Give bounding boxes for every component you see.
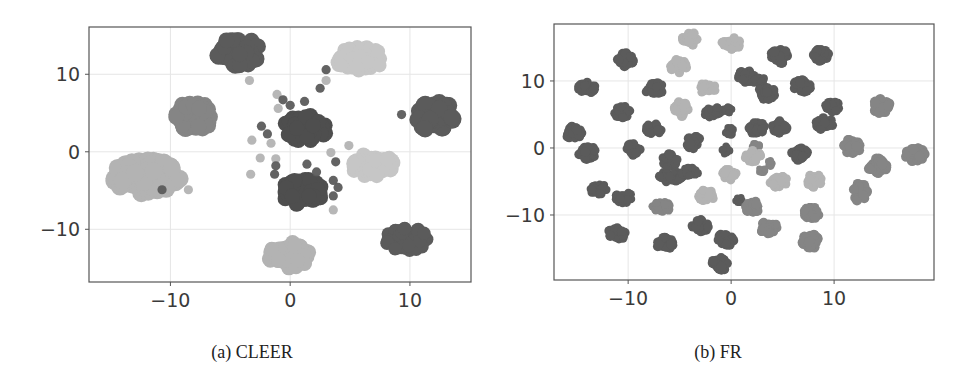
cluster-blob (331, 40, 388, 77)
scatter-point (274, 104, 283, 113)
cluster-blob (678, 28, 702, 49)
x-tick-label: 0 (284, 289, 296, 311)
scatter-point (286, 101, 295, 110)
cluster-blob (745, 118, 769, 137)
cluster-blob (612, 189, 635, 207)
cluster-blob (809, 45, 833, 66)
scatter-point (397, 110, 406, 119)
cluster-blob (767, 45, 792, 68)
cluster-blob (653, 233, 677, 253)
scatter-point (302, 160, 311, 169)
cluster-blob (648, 198, 673, 216)
scatter-point (329, 205, 338, 214)
cluster-blob (722, 124, 737, 139)
scatter-point (246, 170, 255, 179)
cluster-blob (683, 132, 704, 153)
caption-fr: (b) FR (694, 342, 742, 363)
scatter-clusters (563, 28, 930, 274)
scatter-point (270, 170, 279, 179)
scatter-point (331, 157, 340, 166)
cluster-blob (803, 171, 825, 192)
cluster-blob (696, 79, 719, 96)
scatter-point (312, 167, 321, 176)
y-tick-label: −10 (40, 218, 80, 240)
cluster-blob (587, 180, 611, 198)
scatter-point (344, 141, 353, 150)
cluster-blob (168, 96, 218, 138)
cluster-blob (613, 48, 638, 71)
cluster-blob (678, 164, 702, 180)
cluster-blob (209, 32, 266, 74)
cluster-blob (766, 172, 791, 192)
scatter-point (257, 122, 266, 131)
cluster-blob (787, 143, 812, 164)
scatter-point (322, 76, 331, 85)
cluster-blob (688, 215, 713, 236)
scatter-point (247, 136, 256, 145)
cluster-blob (864, 153, 891, 178)
scatter-point (263, 129, 272, 138)
scatter-point (256, 153, 265, 162)
cluster-blob (262, 235, 316, 275)
scatter-point (333, 183, 342, 192)
cluster-blob (105, 151, 188, 202)
cluster-blob (278, 172, 329, 212)
panel-cleer: −10010 −10010 (a) CLEER (40, 27, 471, 363)
y-axis: −10010 (40, 63, 89, 240)
x-tick-label: −10 (150, 289, 190, 311)
y-tick-label: 10 (56, 63, 80, 85)
x-axis: −10010 (608, 280, 846, 309)
cluster-blob (610, 102, 634, 122)
cluster-blob (800, 203, 823, 223)
cluster-blob (642, 119, 665, 138)
caption-cleer: (a) CLEER (211, 342, 292, 363)
cluster-blob (718, 33, 744, 54)
cluster-blob (278, 108, 333, 148)
x-tick-label: 0 (725, 287, 737, 309)
cluster-blob (563, 122, 587, 143)
cluster-blob (409, 94, 461, 138)
cluster-blob (694, 186, 718, 205)
cluster-blob (346, 147, 400, 183)
scatter-point (329, 191, 338, 200)
scatter-point (271, 161, 280, 170)
panel-fr: −10010 −10010 (b) FR (505, 24, 934, 363)
cluster-blob (757, 218, 781, 239)
cluster-blob (756, 165, 768, 176)
cluster-blob (714, 230, 739, 250)
cluster-blob (798, 230, 823, 253)
cluster-blob (604, 223, 629, 243)
scatter-point (266, 139, 275, 148)
y-tick-label: 0 (533, 137, 545, 159)
cluster-blob (574, 142, 599, 164)
y-tick-label: 10 (521, 70, 545, 92)
scatter-point (245, 76, 254, 85)
y-tick-label: −10 (505, 204, 545, 226)
scatter-point (157, 185, 166, 194)
scatter-point (322, 65, 331, 74)
cluster-blob (708, 253, 732, 275)
x-tick-label: −10 (608, 287, 648, 309)
y-tick-label: 0 (68, 141, 80, 163)
cluster-blob (849, 179, 872, 206)
cluster-blob (623, 139, 645, 159)
x-tick-label: 10 (822, 287, 846, 309)
cluster-blob (790, 75, 815, 96)
cluster-blob (901, 143, 930, 166)
x-axis: −10010 (150, 282, 422, 311)
cluster-blob (839, 135, 864, 158)
scatter-point (184, 185, 193, 194)
scatter-point (300, 97, 309, 106)
cluster-blob (666, 55, 691, 77)
cluster-blob (670, 97, 693, 121)
cluster-blob (718, 165, 740, 184)
scatter-point (326, 148, 335, 157)
cluster-blob (380, 222, 433, 257)
scatter-point (316, 84, 325, 93)
x-tick-label: 10 (398, 289, 422, 311)
cluster-blob (870, 94, 894, 118)
figure: −10010 −10010 (a) CLEER −10010 −10010 (b… (0, 0, 967, 385)
cluster-blob (812, 113, 837, 134)
scatter-clusters (105, 32, 461, 275)
cluster-blob (755, 82, 779, 104)
